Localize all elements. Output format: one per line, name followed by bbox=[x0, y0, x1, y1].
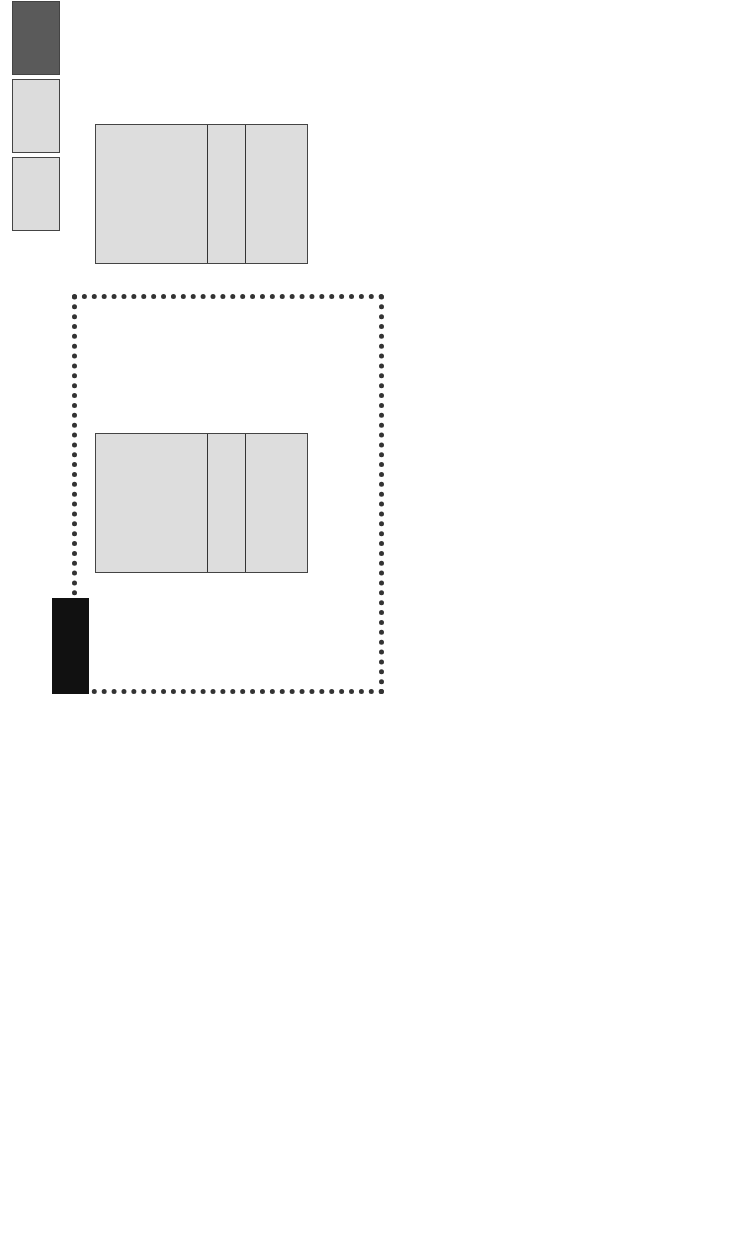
process-manpower bbox=[208, 434, 246, 572]
process-box bbox=[95, 433, 308, 573]
process-cycle-time bbox=[246, 125, 307, 263]
value-stream-map bbox=[0, 0, 746, 1236]
process-title bbox=[96, 125, 208, 263]
process-box bbox=[95, 124, 308, 264]
process-title bbox=[96, 434, 208, 572]
legend-business-teams bbox=[12, 1, 60, 75]
group-time-badge bbox=[52, 598, 89, 694]
process-manpower bbox=[208, 125, 246, 263]
process-cycle-time bbox=[246, 434, 307, 572]
legend-editing-company bbox=[12, 79, 60, 153]
legend-newspaper-team bbox=[12, 157, 60, 231]
